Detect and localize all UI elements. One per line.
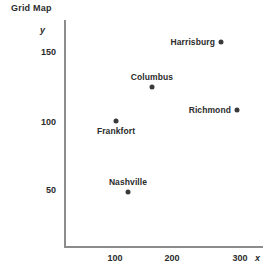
data-point-label: Richmond [189, 105, 231, 115]
data-point-marker[interactable] [126, 190, 131, 195]
data-point-marker[interactable] [150, 85, 155, 90]
data-point-marker[interactable] [219, 40, 224, 45]
x-tick-label: 100 [107, 253, 122, 263]
y-tick-label: 50 [46, 185, 56, 195]
y-tick-label: 150 [41, 47, 56, 57]
data-point-label: Nashville [109, 177, 147, 187]
data-point-label: Harrisburg [171, 37, 215, 47]
data-point-marker[interactable] [235, 108, 240, 113]
data-point-marker[interactable] [114, 119, 119, 124]
x-tick-label: 300 [232, 253, 247, 263]
y-tick-label: 100 [41, 117, 56, 127]
grid-map-chart: Grid Map y x 15010050 100200300 Harrisbu… [0, 0, 266, 274]
chart-title: Grid Map [11, 3, 52, 13]
x-axis-label: x [255, 253, 260, 263]
x-axis-line [64, 246, 263, 248]
y-axis-label: y [40, 25, 45, 35]
data-point-label: Frankfort [97, 126, 135, 136]
x-tick-label: 200 [164, 253, 179, 263]
y-axis-line [64, 20, 66, 248]
data-point-label: Columbus [131, 72, 173, 82]
